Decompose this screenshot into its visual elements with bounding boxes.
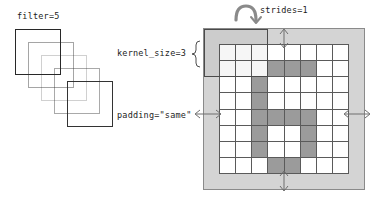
grid-cell	[236, 110, 252, 126]
feature-map-grid	[203, 28, 365, 190]
kernel-size-brace	[192, 41, 200, 67]
grid-cell	[317, 45, 333, 61]
grid-cell	[301, 110, 317, 126]
grid-cell	[333, 45, 349, 61]
grid-cell	[268, 45, 284, 61]
grid-cell	[252, 158, 268, 174]
grid-cell	[252, 77, 268, 93]
grid-cell	[220, 45, 236, 61]
grid-cell	[268, 142, 284, 158]
grid-cell	[333, 126, 349, 142]
grid-cell	[236, 158, 252, 174]
grid-cell	[317, 126, 333, 142]
grid-cell	[301, 61, 317, 77]
grid-cell	[236, 126, 252, 142]
grid-cell	[317, 158, 333, 174]
input-grid	[219, 44, 349, 174]
grid-cell	[333, 61, 349, 77]
diagram-canvas: filter=5 kernel_size=3 padding="same" st…	[0, 0, 378, 209]
grid-cell	[301, 158, 317, 174]
grid-cell	[301, 142, 317, 158]
grid-cell	[301, 77, 317, 93]
grid-cell	[317, 142, 333, 158]
grid-cell	[285, 61, 301, 77]
grid-cell	[317, 77, 333, 93]
grid-cell	[268, 61, 284, 77]
grid-cell	[333, 93, 349, 109]
grid-cell	[236, 61, 252, 77]
grid-cell	[220, 158, 236, 174]
grid-cell	[317, 93, 333, 109]
grid-cell	[220, 126, 236, 142]
grid-cell	[285, 45, 301, 61]
grid-cell	[317, 110, 333, 126]
grid-cell	[333, 110, 349, 126]
grid-cell	[268, 93, 284, 109]
grid-cell	[252, 142, 268, 158]
grid-cell	[236, 93, 252, 109]
grid-cell	[268, 77, 284, 93]
grid-cell	[220, 93, 236, 109]
filter-label: filter=5	[17, 11, 60, 21]
grid-cell	[252, 110, 268, 126]
grid-cell	[252, 93, 268, 109]
grid-cell	[333, 142, 349, 158]
filter-square	[15, 29, 61, 75]
grid-cell	[285, 77, 301, 93]
grid-cell	[252, 45, 268, 61]
padding-label: padding="same"	[117, 110, 191, 120]
grid-cell	[252, 61, 268, 77]
grid-cell	[236, 45, 252, 61]
grid-cell	[220, 77, 236, 93]
grid-cell	[285, 110, 301, 126]
strides-curved-arrow	[236, 6, 261, 23]
grid-cell	[268, 158, 284, 174]
grid-cell	[285, 93, 301, 109]
grid-cell	[252, 126, 268, 142]
grid-cell	[220, 142, 236, 158]
grid-cell	[333, 77, 349, 93]
strides-label: strides=1	[260, 5, 308, 15]
kernel-size-label: kernel_size=3	[117, 48, 186, 58]
grid-cell	[268, 126, 284, 142]
grid-cell	[285, 158, 301, 174]
grid-cell	[220, 61, 236, 77]
grid-cell	[220, 110, 236, 126]
grid-cell	[285, 126, 301, 142]
grid-cell	[333, 158, 349, 174]
grid-cell	[268, 110, 284, 126]
grid-cell	[301, 45, 317, 61]
grid-cell	[301, 126, 317, 142]
grid-cell	[317, 61, 333, 77]
grid-cell	[236, 77, 252, 93]
grid-cell	[285, 142, 301, 158]
grid-cell	[236, 142, 252, 158]
grid-cell	[301, 93, 317, 109]
